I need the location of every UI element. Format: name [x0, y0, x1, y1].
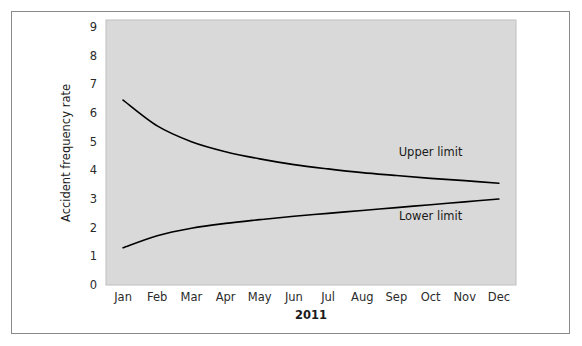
x-tick-label: Apr: [216, 290, 236, 304]
figure-canvas: 0123456789 JanFebMarAprMayJunJulAugSepOc…: [0, 0, 582, 346]
accident-frequency-rate-chart: 0123456789 JanFebMarAprMayJunJulAugSepOc…: [0, 0, 582, 346]
x-tick-label: Sep: [386, 290, 408, 304]
x-tick-label: Jan: [113, 290, 132, 304]
x-tick-label: May: [248, 290, 272, 304]
y-tick-label: 9: [90, 20, 97, 34]
y-tick-label: 6: [90, 106, 97, 120]
x-tick-label: Oct: [421, 290, 441, 304]
y-tick-label: 8: [90, 49, 97, 63]
x-tick-label: Feb: [147, 290, 167, 304]
x-tick-label: Dec: [488, 290, 510, 304]
x-tick-label: Nov: [454, 290, 477, 304]
y-tick-label: 2: [90, 221, 97, 235]
x-axis-title: 2011: [295, 308, 327, 322]
y-tick-label: 4: [90, 163, 97, 177]
x-tick-label: Aug: [351, 290, 373, 304]
y-axis-tick-labels: 0123456789: [90, 20, 97, 292]
y-tick-label: 3: [90, 192, 97, 206]
y-axis-title: Accident frequency rate: [59, 84, 73, 222]
y-tick-label: 7: [90, 77, 97, 91]
x-tick-label: Jun: [284, 290, 303, 304]
y-tick-label: 5: [90, 135, 97, 149]
y-tick-label: 1: [90, 249, 97, 263]
annotation-lower-limit: Lower limit: [399, 209, 463, 223]
y-tick-label: 0: [90, 278, 97, 292]
annotation-upper-limit: Upper limit: [399, 145, 463, 159]
x-tick-label: Jul: [320, 290, 335, 304]
x-axis-tick-labels: JanFebMarAprMayJunJulAugSepOctNovDec: [113, 290, 510, 304]
x-tick-label: Mar: [181, 290, 203, 304]
